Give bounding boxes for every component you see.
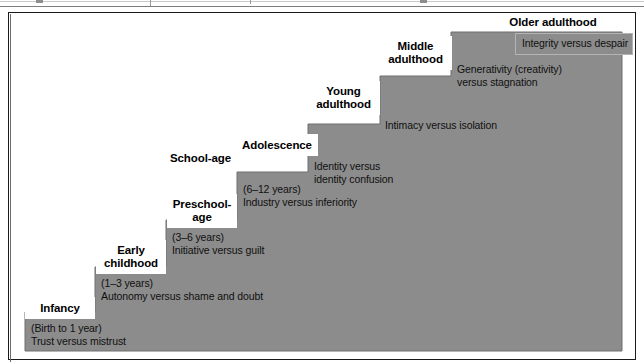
scan-tick bbox=[250, 0, 251, 4]
scan-edge-strip bbox=[0, 0, 644, 9]
scan-artifact bbox=[420, 0, 427, 3]
stage-desc-young-adulthood: Intimacy versus isolation bbox=[385, 119, 595, 132]
stage-label-preschool-age[interactable]: Preschool- age bbox=[167, 194, 237, 228]
stage-crisis: Identity versus bbox=[314, 160, 474, 173]
stage-desc-school-age: (6–12 years) Industry versus inferiority bbox=[243, 183, 453, 208]
stage-crisis: Initiative versus guilt bbox=[172, 244, 372, 257]
stage-name-line: Young bbox=[307, 85, 380, 98]
stage-label-infancy[interactable]: Infancy bbox=[25, 297, 95, 319]
stage-desc-older-adulthood: Integrity versus despair bbox=[515, 33, 633, 55]
stage-crisis: Trust versus mistrust bbox=[31, 335, 211, 348]
stage-name-line: childhood bbox=[96, 257, 166, 270]
stage-crisis: Integrity versus despair bbox=[522, 37, 626, 50]
scan-rule-bottom bbox=[0, 6, 644, 7]
stage-crisis: versus stagnation bbox=[457, 76, 617, 89]
stage-desc-preschool-age: (3–6 years) Initiative versus guilt bbox=[172, 231, 372, 256]
stage-name-line: Infancy bbox=[25, 302, 95, 315]
scan-tick bbox=[150, 0, 151, 6]
stage-age: (Birth to 1 year) bbox=[31, 322, 211, 335]
stage-crisis: Generativity (creativity) bbox=[457, 63, 617, 76]
stage-name-line: Older adulthood bbox=[478, 16, 628, 29]
stage-name-line: School-age bbox=[164, 152, 237, 165]
stage-name-line: Preschool- bbox=[167, 198, 237, 211]
stage-crisis: Industry versus inferiority bbox=[243, 196, 453, 209]
stage-name-line: adulthood bbox=[379, 53, 452, 66]
stage-age: (3–6 years) bbox=[172, 231, 372, 244]
stage-crisis: Autonomy versus shame and doubt bbox=[101, 290, 331, 303]
stage-desc-middle-adulthood: Generativity (creativity) versus stagnat… bbox=[457, 63, 617, 88]
stage-label-young-adulthood[interactable]: Young adulthood bbox=[307, 81, 380, 115]
stage-label-older-adulthood[interactable]: Older adulthood bbox=[478, 13, 628, 31]
stage-desc-early-childhood: (1–3 years) Autonomy versus shame and do… bbox=[101, 277, 331, 302]
stage-label-school-age[interactable]: School-age bbox=[164, 147, 237, 169]
stage-label-early-childhood[interactable]: Early childhood bbox=[96, 240, 166, 274]
stage-name-line: adulthood bbox=[307, 98, 380, 111]
stage-desc-infancy: (Birth to 1 year) Trust versus mistrust bbox=[31, 322, 211, 347]
stage-crisis: Intimacy versus isolation bbox=[385, 119, 595, 132]
stage-label-adolescence[interactable]: Adolescence bbox=[236, 134, 318, 156]
figure-canvas: Infancy (Birth to 1 year) Trust versus m… bbox=[0, 0, 644, 364]
stage-name-line: Middle bbox=[379, 40, 452, 53]
scan-artifact bbox=[36, 0, 43, 3]
stage-desc-adolescence: Identity versus identity confusion bbox=[314, 160, 474, 185]
stage-name-line: Early bbox=[96, 244, 166, 257]
stage-name-line: age bbox=[167, 211, 237, 224]
stage-age: (1–3 years) bbox=[101, 277, 331, 290]
stage-crisis: identity confusion bbox=[314, 173, 474, 186]
stage-label-middle-adulthood[interactable]: Middle adulthood bbox=[379, 36, 452, 70]
scan-rule-top bbox=[0, 1, 644, 2]
stage-name-line: Adolescence bbox=[236, 139, 318, 152]
